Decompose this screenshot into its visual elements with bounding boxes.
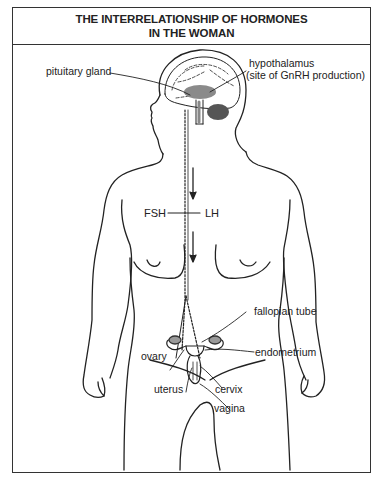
label-fallopian-tube: fallopian tube [254,305,316,317]
label-uterus: uterus [154,383,183,395]
label-endometrium: endometrium [255,346,316,358]
hormone-pathway [176,110,200,358]
label-vagina: vagina [214,402,245,414]
label-hypothalamus-note: (site of GnRH production) [246,69,365,81]
label-hypothalamus: hypothalamus [249,57,314,69]
brain-icon [165,57,240,124]
label-lh: LH [205,207,219,219]
label-pituitary-gland: pituitary gland [46,65,111,77]
arrow-down-icon [190,168,196,262]
label-ovary: ovary [141,350,167,362]
leader-lines [110,71,254,410]
label-cervix: cervix [215,383,242,395]
label-fsh: FSH [144,207,166,219]
